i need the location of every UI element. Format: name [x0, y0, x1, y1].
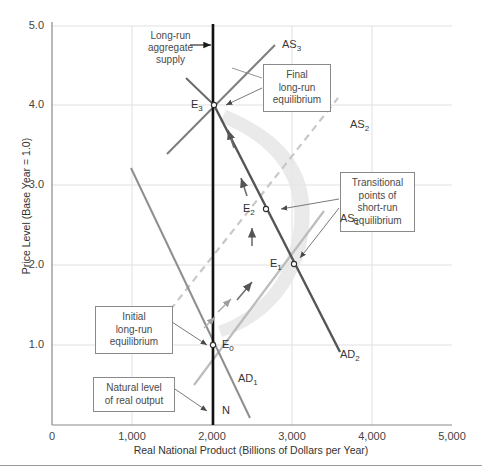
point-e3 [211, 102, 216, 107]
leader-final-long-run-2 [232, 68, 262, 78]
curve-label-as1-sub: 1 [355, 218, 359, 227]
lras-annotation: Long-run aggregate supply [148, 30, 193, 66]
point-label-e3-sub: 3 [198, 104, 202, 113]
curve-label-ad1-text: AD [238, 372, 253, 384]
point-label-e3: E3 [191, 98, 203, 113]
point-label-e0-sub: 0 [229, 344, 233, 353]
point-label-e1-sub: 1 [277, 263, 281, 272]
leader-final-long-run [226, 88, 262, 105]
callout-natural-level-output: Natural level of real output [93, 377, 175, 412]
callout-initial-line-3: equilibrium [101, 336, 167, 349]
curve-label-as3: AS3 [282, 38, 301, 53]
curve-label-as1: AS1 [340, 212, 359, 227]
point-e1 [291, 261, 296, 266]
curve-label-ad2-text: AD [340, 348, 355, 360]
transition-path-shading [218, 110, 310, 337]
point-label-e0: E0 [222, 338, 234, 353]
x-axis-title: Real National Product (Billions of Dolla… [61, 444, 441, 456]
curve-label-ad1-sub: 1 [253, 378, 257, 387]
callout-initial-line-2: long-run [101, 324, 167, 337]
callout-final-line-2: long-run [269, 82, 325, 95]
callout-initial-long-run: Initial long-run equilibrium [95, 306, 173, 354]
callout-transitional-line-2: points of [346, 190, 409, 203]
figure-bottom-rule [0, 465, 482, 466]
x-tick-3000: 3,000 [262, 430, 322, 442]
curve-label-as3-sub: 3 [297, 44, 301, 53]
transition-arrows [204, 130, 252, 328]
y-tick-2: 2.0 [14, 258, 44, 270]
callout-natural-line-1: Natural level [99, 382, 169, 395]
lras-annotation-line-2: aggregate [148, 42, 193, 54]
y-tick-4: 4.0 [14, 98, 44, 110]
curve-label-ad2: AD2 [340, 348, 360, 363]
point-e2 [263, 206, 268, 211]
curve-label-ad2-sub: 2 [355, 354, 359, 363]
lras-annotation-line-1: Long-run [148, 30, 193, 42]
curve-label-as3-text: AS [282, 38, 297, 50]
curve-label-as2-sub: 2 [365, 124, 369, 133]
callout-final-long-run: Final long-run equilibrium [263, 64, 331, 112]
point-label-n: N [222, 404, 230, 416]
callout-final-line-1: Final [269, 69, 325, 82]
point-e0 [210, 342, 215, 347]
aggregate-supply-demand-chart: Price Level (Base Year = 1.0) 5.0 4.0 3.… [0, 0, 482, 475]
y-tick-5: 5.0 [14, 19, 44, 31]
point-label-e2-sub: 2 [250, 208, 254, 217]
chart-plot-area [0, 0, 482, 475]
y-tick-1: 1.0 [14, 338, 44, 350]
x-tick-4000: 4,000 [342, 430, 402, 442]
point-label-n-text: N [222, 404, 230, 416]
x-tick-2000: 2,000 [182, 430, 242, 442]
point-label-e2: E2 [243, 202, 255, 217]
leader-initial-long-run [172, 322, 207, 345]
leader-natural-level [172, 387, 207, 411]
leader-transitional-e2 [281, 199, 339, 209]
curve-label-ad1: AD1 [238, 372, 258, 387]
callout-initial-line-1: Initial [101, 311, 167, 324]
curve-label-as2-text: AS [350, 118, 365, 130]
lras-annotation-line-3: supply [148, 54, 193, 66]
x-tick-1000: 1,000 [102, 430, 162, 442]
curve-label-as2: AS2 [350, 118, 369, 133]
y-tick-3: 3.0 [14, 178, 44, 190]
callout-transitional-line-1: Transitional [346, 177, 409, 190]
callout-natural-line-2: of real output [99, 395, 169, 408]
point-label-e1: E1 [270, 257, 282, 272]
curve-label-as1-text: AS [340, 212, 355, 224]
x-tick-0: 0 [22, 430, 82, 442]
x-tick-5000: 5,000 [422, 430, 482, 442]
callout-final-line-3: equilibrium [269, 94, 325, 107]
